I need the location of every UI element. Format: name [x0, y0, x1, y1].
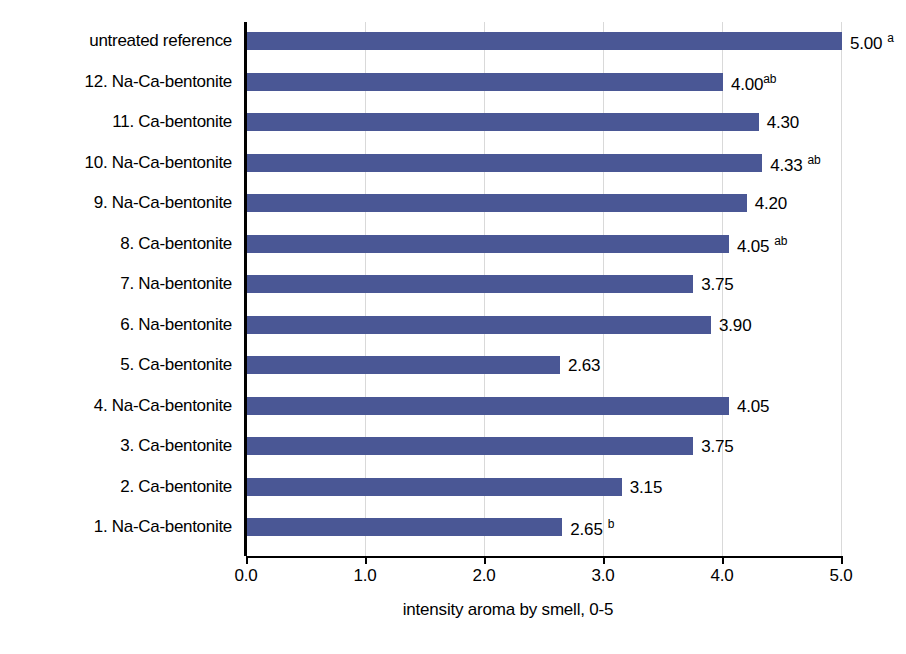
bar-row: 4. Na-Ca-bentonite4.05 [0, 387, 906, 425]
bar-value-label: 3.75 [701, 275, 733, 293]
bar-value: 4.05 [737, 236, 769, 255]
bar-value: 2.65 [570, 520, 602, 539]
significance-mark: a [887, 31, 893, 45]
bar-row: 1. Na-Ca-bentonite2.65b [0, 508, 906, 546]
x-tick-label: 3.0 [591, 566, 614, 586]
category-label: 5. Ca-bentonite [0, 346, 232, 384]
category-label: 7. Na-bentonite [0, 265, 232, 303]
category-label: 11. Ca-bentonite [0, 103, 232, 141]
bar [247, 194, 747, 212]
bar [247, 154, 762, 172]
bar-row: 3. Ca-bentonite3.75 [0, 427, 906, 465]
bar-value: 4.33 [770, 155, 802, 174]
bar-value-label: 5.00a [850, 32, 894, 50]
category-label: 8. Ca-bentonite [0, 225, 232, 263]
bar-chart: untreated reference5.00a12. Na-Ca-benton… [0, 0, 906, 654]
x-tick-label: 5.0 [829, 566, 852, 586]
x-tick [246, 556, 248, 564]
bar-value: 2.63 [568, 356, 600, 375]
category-label: untreated reference [0, 22, 232, 60]
bar-row: 12. Na-Ca-bentonite4.00ab [0, 63, 906, 101]
bar-value-label: 4.20 [755, 194, 787, 212]
x-tick-label: 4.0 [710, 566, 733, 586]
bar-value-label: 3.15 [630, 478, 662, 496]
x-tick-label: 0.0 [234, 566, 257, 586]
category-label: 6. Na-bentonite [0, 306, 232, 344]
bar-value: 3.75 [701, 275, 733, 294]
bar-value: 4.05 [737, 397, 769, 416]
bar [247, 73, 723, 91]
bar [247, 32, 842, 50]
x-tick [603, 556, 605, 564]
bar-value: 3.75 [701, 437, 733, 456]
significance-mark: b [608, 517, 614, 531]
bar-value-label: 4.00ab [731, 73, 776, 91]
bar [247, 518, 562, 536]
x-tick [484, 556, 486, 564]
bar-row: 7. Na-bentonite3.75 [0, 265, 906, 303]
x-tick-label: 2.0 [472, 566, 495, 586]
bar [247, 478, 622, 496]
bar-value: 4.00 [731, 74, 763, 93]
x-tick-label: 1.0 [353, 566, 376, 586]
bar-value: 3.90 [719, 316, 751, 335]
y-axis-line [244, 22, 247, 556]
bar [247, 397, 729, 415]
bar-value: 5.00 [850, 34, 882, 53]
bar-row: 10. Na-Ca-bentonite4.33ab [0, 144, 906, 182]
bar [247, 235, 729, 253]
bar-value: 3.15 [630, 478, 662, 497]
bar-value: 4.20 [755, 194, 787, 213]
bar-value-label: 4.05 [737, 397, 769, 415]
category-label: 4. Na-Ca-bentonite [0, 387, 232, 425]
bar [247, 356, 560, 374]
bar [247, 437, 693, 455]
significance-mark: ab [774, 234, 787, 248]
bar [247, 275, 693, 293]
bar-row: 5. Ca-bentonite2.63 [0, 346, 906, 384]
category-label: 2. Ca-bentonite [0, 468, 232, 506]
x-tick [365, 556, 367, 564]
bar-row: 11. Ca-bentonite4.30 [0, 103, 906, 141]
x-axis-title-text: intensity aroma by smell, 0-5 [403, 600, 614, 620]
x-axis-line [246, 556, 842, 558]
bar [247, 113, 759, 131]
x-tick [841, 556, 843, 564]
category-label: 9. Na-Ca-bentonite [0, 184, 232, 222]
bar-value-label: 4.05ab [737, 235, 787, 253]
category-label: 1. Na-Ca-bentonite [0, 508, 232, 546]
x-tick [722, 556, 724, 564]
category-label: 3. Ca-bentonite [0, 427, 232, 465]
bar-value-label: 3.75 [701, 437, 733, 455]
significance-mark: ab [808, 153, 821, 167]
bar [247, 316, 711, 334]
bar-value-label: 3.90 [719, 316, 751, 334]
bar-value-label: 2.65b [570, 518, 614, 536]
x-axis-title: intensity aroma by smell, 0-5 [0, 600, 906, 620]
bar-row: untreated reference5.00a [0, 22, 906, 60]
bar-row: 9. Na-Ca-bentonite4.20 [0, 184, 906, 222]
significance-mark: ab [763, 72, 776, 86]
category-label: 12. Na-Ca-bentonite [0, 63, 232, 101]
bar-row: 2. Ca-bentonite3.15 [0, 468, 906, 506]
bar-value-label: 2.63 [568, 356, 600, 374]
bar-row: 6. Na-bentonite3.90 [0, 306, 906, 344]
bar-value-label: 4.30 [767, 113, 799, 131]
bar-value: 4.30 [767, 113, 799, 132]
bar-row: 8. Ca-bentonite4.05ab [0, 225, 906, 263]
category-label: 10. Na-Ca-bentonite [0, 144, 232, 182]
bar-value-label: 4.33ab [770, 154, 820, 172]
